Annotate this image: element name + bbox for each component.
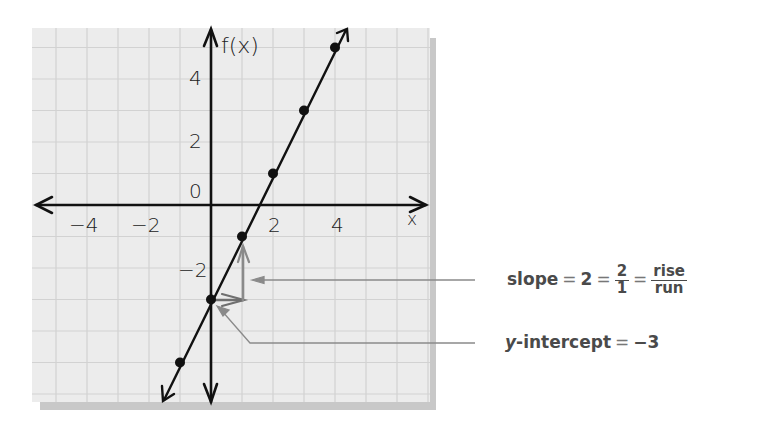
data-point	[299, 106, 309, 116]
equals-sign: =	[596, 269, 610, 289]
y-tick-neg2: −2	[178, 258, 207, 282]
equals-sign: =	[615, 332, 629, 352]
data-point	[175, 358, 185, 368]
data-point	[237, 232, 247, 242]
graph-figure: f(x) x 0 4 2 −2 −4 −2 2 4	[0, 0, 774, 435]
x-tick-2: 2	[268, 213, 281, 237]
data-point	[268, 169, 278, 179]
slope-word: slope	[507, 269, 558, 289]
data-point	[330, 43, 340, 53]
x-tick-neg4: −4	[69, 213, 98, 237]
y-intercept-annotation: y-intercept=−3	[505, 332, 659, 352]
run-label: run	[655, 281, 684, 297]
origin-label: 0	[189, 179, 202, 203]
x-tick-neg2: −2	[131, 213, 160, 237]
equals-sign: =	[633, 269, 647, 289]
x-axis-label: x	[407, 209, 417, 229]
y-variable: y	[505, 332, 516, 352]
y-tick-2: 2	[189, 129, 202, 153]
equals-sign: =	[562, 269, 576, 289]
rise-run-fraction: riserun	[651, 264, 687, 297]
x-tick-4: 4	[331, 213, 344, 237]
y-tick-4: 4	[189, 66, 202, 90]
data-point	[206, 295, 216, 305]
slope-annotation: slope=2=21=riserun	[507, 264, 687, 297]
intercept-word: -intercept	[516, 332, 611, 352]
y-axis-label: f(x)	[221, 33, 259, 58]
slope-fraction: 21	[615, 264, 629, 297]
slope-value: 2	[581, 269, 593, 289]
intercept-value: −3	[633, 332, 659, 352]
fraction-denominator: 1	[617, 281, 627, 297]
